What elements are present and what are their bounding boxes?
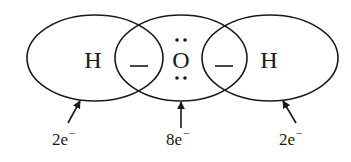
lone-pair-dot-top bbox=[175, 38, 179, 42]
electron-count-label: 8e− bbox=[166, 126, 190, 149]
arrow-icon bbox=[283, 101, 296, 123]
water-molecule-diagram: HOH 2e−8e−2e− bbox=[0, 0, 351, 162]
arrow-icon bbox=[68, 101, 80, 123]
atom-h-2: H bbox=[260, 47, 277, 73]
lone-pair-dot-top bbox=[183, 38, 187, 42]
atom-o-1: O bbox=[172, 47, 189, 73]
atom-symbols: HOH bbox=[84, 47, 277, 73]
pointer-arrows bbox=[68, 101, 296, 128]
lone-pair-dot-bottom bbox=[175, 76, 179, 80]
electron-count-labels: 2e−8e−2e− bbox=[52, 126, 303, 149]
atom-h-0: H bbox=[84, 47, 101, 73]
lone-pair-dot-bottom bbox=[183, 76, 187, 80]
electron-count-label: 2e− bbox=[279, 126, 303, 149]
electron-count-label: 2e− bbox=[52, 126, 76, 149]
